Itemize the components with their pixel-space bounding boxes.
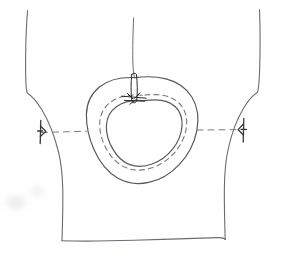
center-front-line [133,18,135,78]
hem-line [62,238,226,242]
notch-mark-right [238,119,246,143]
neckline-inner-contour [106,100,182,167]
notch-right-stroke-0 [243,119,244,143]
left-side-seam [26,11,63,241]
notch-left-stroke-0 [40,121,41,144]
pattern-sketch-svg [0,0,284,263]
center-notch-tick-stroke-2 [127,93,133,99]
notch-right-stroke-1 [238,124,243,129]
center-notch-tick-stroke-0 [122,96,146,98]
sketch-canvas [0,0,284,263]
bust-guideline-dashed-left [42,131,87,132]
notch-right-stroke-2 [238,130,243,135]
